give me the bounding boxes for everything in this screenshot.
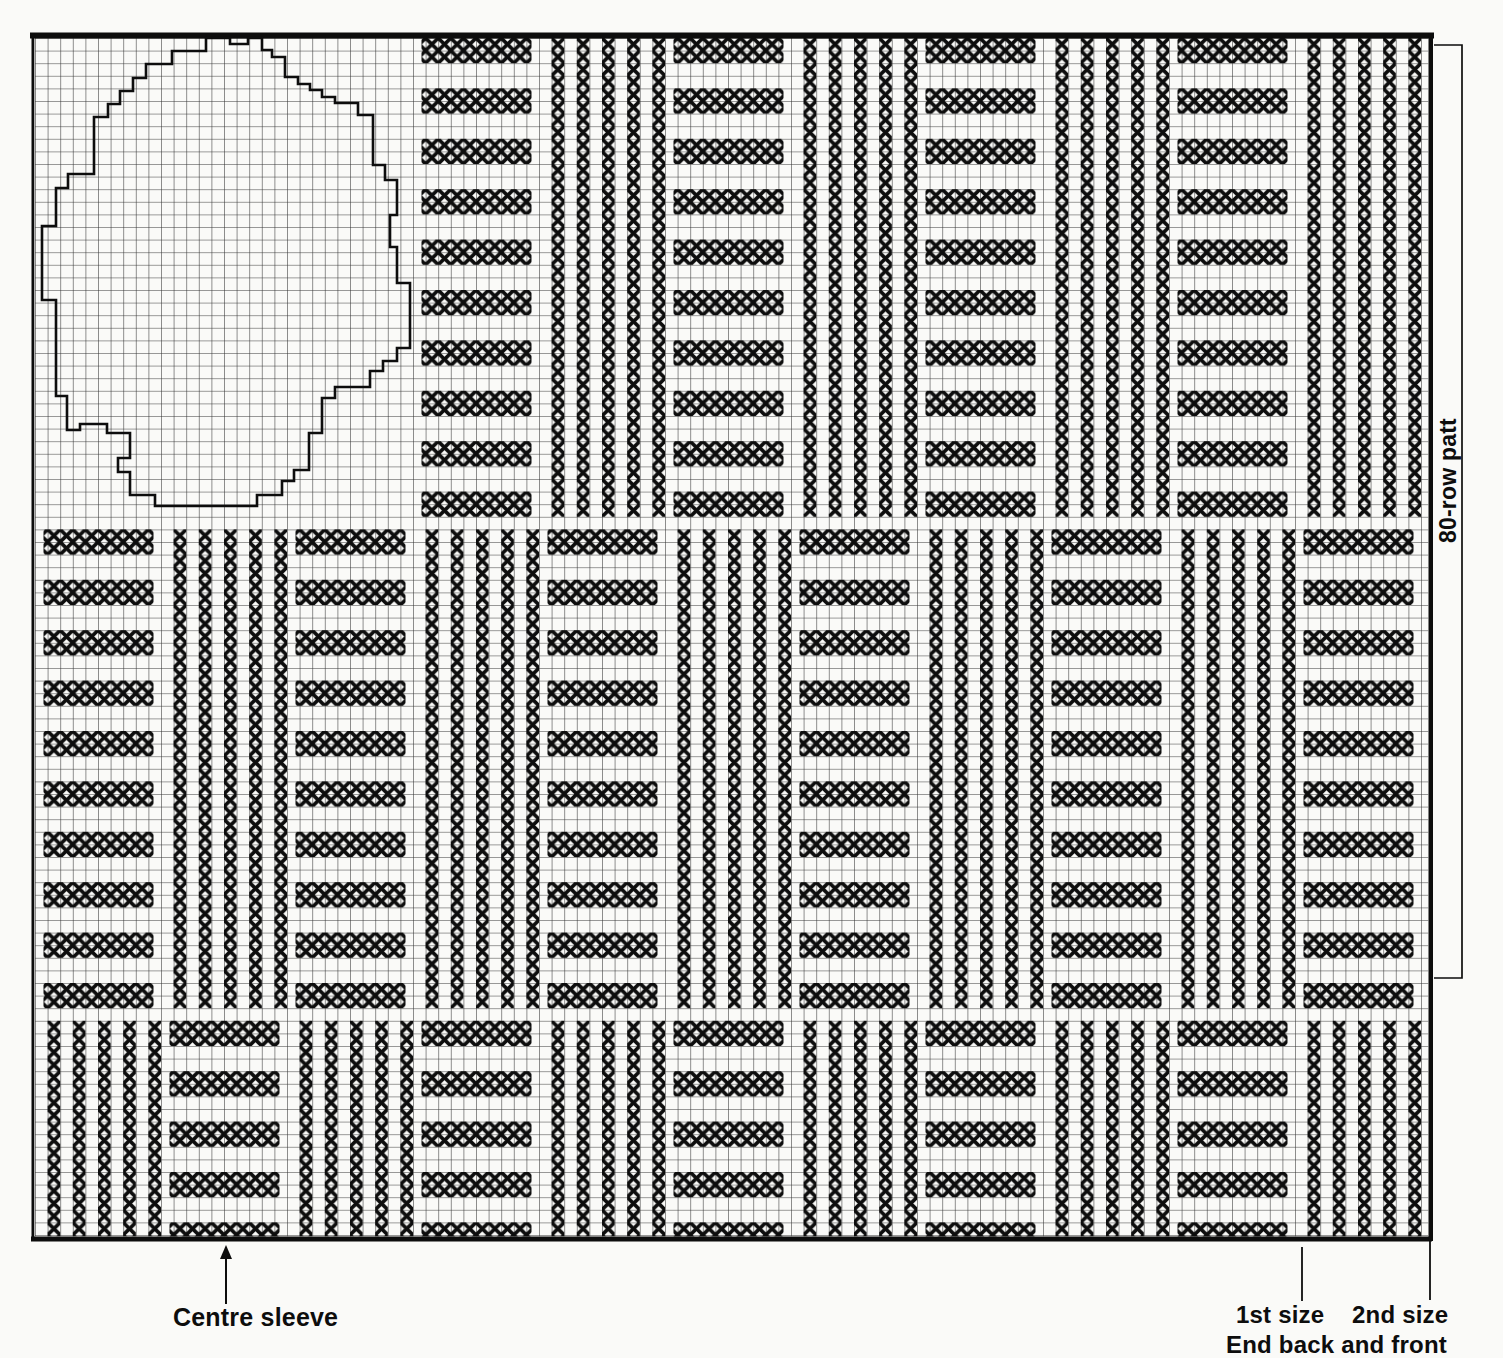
stitch-bar-vertical [804, 1021, 817, 1237]
stitch-bar-horizontal [674, 240, 784, 265]
stitch-bar-horizontal [1178, 441, 1288, 466]
stitch-bar-vertical [123, 1021, 136, 1237]
stitch-bar-horizontal [800, 529, 910, 554]
stitch-bar-horizontal [800, 731, 910, 756]
stitch-bar-vertical [451, 529, 464, 1008]
stitch-bar-vertical [274, 529, 287, 1008]
stitch-bar-vertical [879, 1021, 892, 1237]
pattern-chart-canvas [0, 0, 1503, 1358]
stitch-bar-horizontal [44, 933, 154, 958]
stitch-bar-horizontal [170, 1071, 280, 1096]
stitch-bar-horizontal [44, 832, 154, 857]
stitch-bar-horizontal [674, 1071, 784, 1096]
stitch-bar-horizontal [1052, 832, 1162, 857]
stitch-bar-horizontal [1052, 933, 1162, 958]
stitch-bar-vertical [1030, 529, 1043, 1008]
stitch-bar-horizontal [926, 38, 1036, 63]
stitch-bar-horizontal [296, 529, 406, 554]
stitch-bar-horizontal [548, 933, 658, 958]
stitch-bar-horizontal [170, 1122, 280, 1147]
stitch-bar-horizontal [1304, 832, 1414, 857]
stitch-bar-vertical [728, 529, 741, 1008]
stitch-bar-horizontal [1178, 139, 1288, 164]
stitch-bar-horizontal [296, 832, 406, 857]
stitch-bar-horizontal [1304, 731, 1414, 756]
stitch-bar-horizontal [1178, 38, 1288, 63]
stitch-bar-horizontal [1178, 189, 1288, 214]
stitch-bar-vertical [1308, 1021, 1321, 1237]
stitch-bar-horizontal [674, 1172, 784, 1197]
stitch-bar-horizontal [926, 441, 1036, 466]
stitch-bar-vertical [804, 38, 817, 517]
knitting-pattern-page: Centre sleeve 1st size 2nd size End back… [0, 0, 1503, 1358]
stitch-bar-vertical [1131, 1021, 1144, 1237]
stitch-bar-vertical [829, 1021, 842, 1237]
stitch-bar-horizontal [422, 88, 532, 113]
stitch-bar-vertical [426, 529, 439, 1008]
stitch-bar-horizontal [548, 731, 658, 756]
stitch-bar-vertical [1182, 529, 1195, 1008]
stitch-bar-vertical [400, 1021, 413, 1237]
stitch-bar-horizontal [1304, 529, 1414, 554]
stitch-bar-horizontal [296, 681, 406, 706]
stitch-bar-horizontal [548, 781, 658, 806]
stitch-bar-horizontal [674, 189, 784, 214]
stitch-bar-vertical [1282, 529, 1295, 1008]
stitch-bar-vertical [652, 38, 665, 517]
stitch-bar-vertical [602, 38, 615, 517]
stitch-bar-horizontal [1178, 1122, 1288, 1147]
stitch-bar-horizontal [674, 1222, 784, 1247]
stitch-bar-vertical [904, 38, 917, 517]
first-size-label: 1st size [1236, 1302, 1324, 1328]
stitch-bar-horizontal [1304, 681, 1414, 706]
stitch-bar-horizontal [422, 441, 532, 466]
stitch-bar-vertical [678, 529, 691, 1008]
stitch-bar-horizontal [926, 1222, 1036, 1247]
stitch-bar-vertical [1358, 38, 1371, 517]
stitch-bar-horizontal [44, 630, 154, 655]
stitch-bar-vertical [526, 529, 539, 1008]
stitch-bar-horizontal [44, 781, 154, 806]
stitch-bar-horizontal [674, 139, 784, 164]
stitch-bar-horizontal [44, 882, 154, 907]
chart-grid-and-stitches [35, 38, 1429, 1248]
stitch-bar-horizontal [1052, 681, 1162, 706]
stitch-bar-horizontal [296, 580, 406, 605]
centre-sleeve-arrow [220, 1245, 232, 1304]
stitch-bar-vertical [1408, 1021, 1421, 1237]
stitch-bar-horizontal [800, 832, 910, 857]
stitch-bar-horizontal [1052, 781, 1162, 806]
stitch-bar-horizontal [422, 1021, 532, 1046]
knitting-chart-svg [0, 0, 1503, 1358]
stitch-bar-vertical [1156, 38, 1169, 517]
stitch-bar-vertical [199, 529, 212, 1008]
stitch-bar-horizontal [1052, 529, 1162, 554]
stitch-bar-horizontal [296, 882, 406, 907]
stitch-bar-vertical [879, 38, 892, 517]
stitch-bar-vertical [1106, 38, 1119, 517]
stitch-bar-horizontal [1178, 391, 1288, 416]
stitch-bar-horizontal [548, 983, 658, 1008]
stitch-bar-vertical [1383, 1021, 1396, 1237]
stitch-bar-horizontal [296, 781, 406, 806]
stitch-bar-horizontal [674, 38, 784, 63]
stitch-bar-vertical [224, 529, 237, 1008]
centre-sleeve-label: Centre sleeve [173, 1304, 338, 1332]
stitch-bar-horizontal [1178, 240, 1288, 265]
stitch-bar-horizontal [1052, 882, 1162, 907]
stitch-bar-horizontal [44, 529, 154, 554]
stitch-bar-horizontal [674, 391, 784, 416]
stitch-bar-vertical [1308, 38, 1321, 517]
stitch-bar-vertical [1358, 1021, 1371, 1237]
stitch-bar-vertical [854, 38, 867, 517]
stitch-bar-vertical [48, 1021, 61, 1237]
stitch-bar-vertical [1056, 38, 1069, 517]
stitch-bar-horizontal [674, 290, 784, 315]
stitch-bar-horizontal [1304, 781, 1414, 806]
stitch-bar-vertical [577, 38, 590, 517]
stitch-bar-horizontal [800, 580, 910, 605]
stitch-bar-horizontal [548, 882, 658, 907]
stitch-bar-vertical [1005, 529, 1018, 1008]
stitch-bar-horizontal [926, 492, 1036, 517]
stitch-bar-vertical [778, 529, 791, 1008]
